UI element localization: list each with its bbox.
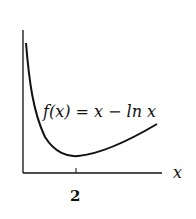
function-curve <box>26 43 157 156</box>
x-axis-label: x <box>173 163 182 182</box>
function-graph: f(x) = x − ln x x 2 <box>0 0 196 219</box>
function-label: f(x) = x − ln x <box>42 102 156 121</box>
x-tick-label-2: 2 <box>70 187 80 205</box>
